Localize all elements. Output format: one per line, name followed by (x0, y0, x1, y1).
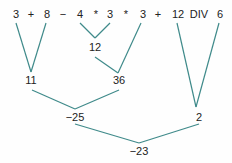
node-mult2: 36 (113, 75, 125, 86)
node-mult1: 12 (89, 42, 101, 53)
token-operand: 3 (140, 9, 146, 20)
token-operand: 8 (44, 9, 50, 20)
node-add1: 11 (25, 75, 36, 86)
token-operator: DIV (190, 9, 208, 20)
token-operator: − (60, 9, 66, 20)
token-operand: 3 (13, 9, 19, 20)
token-operator: * (124, 9, 128, 20)
token-operand: 12 (172, 9, 184, 20)
token-operand: 4 (77, 9, 83, 20)
token-operand: 3 (107, 9, 113, 20)
node-div1: 2 (196, 112, 202, 123)
token-operator: + (28, 9, 34, 20)
node-sub1: −25 (66, 112, 85, 123)
token-operand: 6 (217, 9, 223, 20)
token-operator: + (155, 9, 161, 20)
node-final: −23 (130, 146, 149, 157)
token-operator: * (94, 9, 98, 20)
